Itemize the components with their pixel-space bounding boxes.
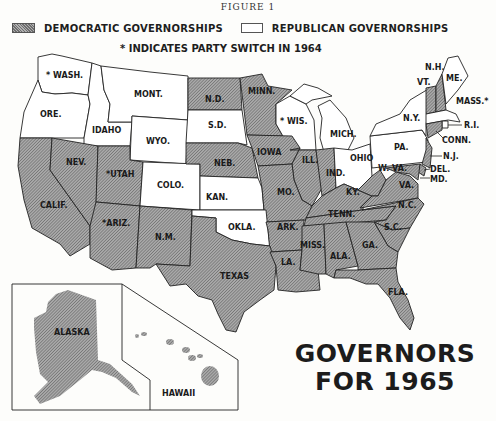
label-miss: MISS. <box>300 241 325 250</box>
label-nd: N.D. <box>205 95 224 104</box>
state-conn <box>426 121 442 138</box>
label-ind: IND. <box>326 169 345 178</box>
label-alaska: ALASKA <box>54 328 90 337</box>
label-ga: GA. <box>362 241 378 250</box>
state-ny <box>370 88 430 136</box>
label-ariz: *ARIZ. <box>102 219 130 228</box>
label-hawaii: HAWAII <box>162 389 195 398</box>
map-figure: FIGURE 1 DEMOCRATIC GOVERNORSHIPS REPUBL… <box>0 0 496 421</box>
label-iowa: IOWA <box>257 148 282 157</box>
label-mich: MICH. <box>330 130 357 139</box>
label-ny: N.Y. <box>403 114 420 123</box>
label-idaho: IDAHO <box>92 126 122 135</box>
label-del: DEL. <box>430 165 450 174</box>
label-kan: KAN. <box>206 193 228 202</box>
label-sd: S.D. <box>208 121 226 130</box>
label-colo: COLO. <box>157 181 184 190</box>
label-fla: FLA. <box>388 288 408 297</box>
label-wva: W. VA. <box>378 164 407 173</box>
label-md: MD. <box>430 175 448 184</box>
label-texas: TEXAS <box>220 272 249 281</box>
state-ri <box>442 121 448 128</box>
state-alaska <box>34 290 140 404</box>
state-vt <box>426 86 436 114</box>
label-nc: N.C. <box>398 201 417 210</box>
label-mass: MASS.* <box>456 97 489 106</box>
label-ala: ALA. <box>330 252 351 261</box>
label-nev: NEV. <box>66 158 86 167</box>
label-ky: KY. <box>346 188 360 197</box>
state-fla <box>334 268 414 330</box>
label-sc: S.C. <box>384 223 402 232</box>
map-title: GOVERNORS FOR 1965 <box>290 340 480 396</box>
label-minn: MINN. <box>248 87 275 96</box>
label-tenn: TENN. <box>328 210 355 219</box>
label-wash: * WASH. <box>46 71 83 80</box>
label-mont: MONT. <box>134 90 163 99</box>
label-utah: *UTAH <box>106 170 134 179</box>
label-vt: VT. <box>417 78 430 87</box>
label-wis: * WIS. <box>280 117 308 126</box>
state-nd <box>188 78 242 110</box>
label-pa: PA. <box>394 143 409 152</box>
label-nj: N.J. <box>443 152 459 161</box>
state-ariz <box>90 202 140 270</box>
label-ill: ILL. <box>302 156 318 165</box>
label-nm: N.M. <box>155 233 176 242</box>
label-ohio: OHIO <box>350 154 373 163</box>
label-me: ME. <box>446 74 462 83</box>
map-title-line1: GOVERNORS <box>290 340 480 368</box>
label-ore: ORE. <box>40 110 61 119</box>
label-mo: MO. <box>277 188 295 197</box>
label-va: VA. <box>399 181 414 190</box>
label-nh: N.H. <box>425 63 444 72</box>
label-calif: CALIF. <box>40 201 67 210</box>
label-ri: R.I. <box>464 121 479 130</box>
label-la: LA. <box>281 258 295 267</box>
label-wyo: WYO. <box>146 137 170 146</box>
label-okla: OKLA. <box>228 223 255 232</box>
label-neb: NEB. <box>214 159 235 168</box>
label-ark: ARK. <box>277 223 299 232</box>
label-conn: CONN. <box>442 136 471 145</box>
map-title-line2: FOR 1965 <box>290 368 480 396</box>
